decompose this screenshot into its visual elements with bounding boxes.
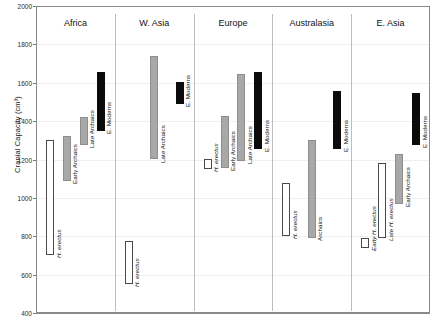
group-separator	[115, 14, 116, 311]
gridline	[36, 83, 430, 84]
bar-label: E. Moderns	[105, 102, 112, 134]
bar-label: Late Archaics	[159, 125, 166, 163]
range-bar	[204, 159, 212, 170]
y-tick-label: 1600	[6, 79, 32, 86]
group-title-e-asia: E. Asia	[377, 18, 405, 28]
range-bar	[80, 117, 88, 145]
gridline	[36, 121, 430, 122]
y-tick-label: 1800	[6, 41, 32, 48]
bar-label: Late Archaics	[246, 127, 253, 165]
gridline	[36, 44, 430, 45]
group-title-africa: Africa	[64, 18, 87, 28]
range-bar	[308, 140, 316, 238]
range-bar	[395, 154, 403, 204]
y-tick-label: 800	[6, 233, 32, 240]
bar-label: Early Archaics	[71, 144, 78, 184]
bar-label: Early Archaics	[404, 167, 411, 207]
bar-label: H. erectus	[212, 143, 219, 172]
bar-label: Late Archaics	[88, 110, 95, 148]
bar-label: H. erectus	[291, 211, 298, 240]
bar-label: E. Moderns	[184, 75, 191, 107]
y-tick-label: 2000	[6, 3, 32, 10]
range-bar	[378, 163, 386, 238]
bar-label: Archaics	[316, 217, 323, 241]
plot-area: AfricaH. erectusEarly ArchaicsLate Archa…	[36, 6, 430, 313]
group-title-europe: Europe	[218, 18, 247, 28]
bar-label: E. Moderns	[342, 120, 349, 152]
range-bar	[63, 136, 71, 181]
cranial-capacity-chart: Cranial Capacity (cm³) 40060080010001200…	[0, 0, 432, 324]
gridline	[36, 198, 430, 199]
y-axis-title: Cranial Capacity (cm³)	[13, 70, 22, 200]
bar-label: H. erectus	[133, 259, 140, 288]
group-title-australasia: Australasia	[290, 18, 335, 28]
gridline	[36, 275, 430, 276]
bar-label: E. Moderns	[263, 120, 270, 152]
range-bar	[97, 72, 105, 131]
range-bar	[125, 241, 133, 284]
bar-label: Early Archaics	[229, 131, 236, 171]
range-bar	[150, 56, 158, 160]
range-bar	[361, 238, 369, 248]
range-bar	[237, 74, 245, 161]
range-bar	[282, 183, 290, 237]
group-separator	[351, 14, 352, 311]
group-separator	[194, 14, 195, 311]
bar-label: H. erectus	[55, 230, 62, 259]
range-bar	[412, 93, 420, 145]
range-bar	[46, 140, 54, 255]
group-title-w-asia: W. Asia	[139, 18, 169, 28]
group-separator	[272, 14, 273, 311]
y-tick-label: 1200	[6, 156, 32, 163]
range-bar	[221, 116, 229, 168]
y-tick-label: 1400	[6, 118, 32, 125]
y-tick-label: 600	[6, 271, 32, 278]
bar-label: Late H. erectus	[387, 198, 394, 241]
range-bar	[176, 82, 184, 104]
range-bar	[254, 72, 262, 149]
x-axis-line	[36, 313, 430, 314]
y-tick-label: 1000	[6, 194, 32, 201]
range-bar	[333, 91, 341, 149]
bar-label: E. Moderns	[421, 116, 428, 148]
bar-label: Early H. erectus	[370, 206, 377, 251]
y-tick-label: 400	[6, 310, 32, 317]
